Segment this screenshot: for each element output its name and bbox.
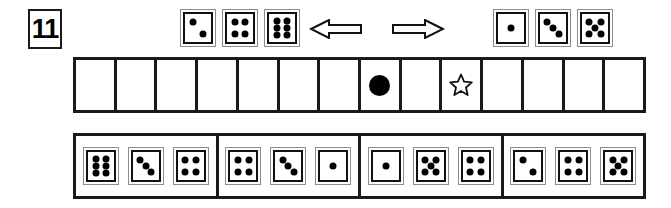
die-face-5 <box>580 12 610 44</box>
die-pip <box>234 156 241 163</box>
die-face-2 <box>513 150 543 182</box>
die-pip <box>544 18 551 25</box>
die-face-4 <box>461 150 491 182</box>
die-pip <box>92 155 99 162</box>
die-pip <box>137 156 144 163</box>
answer-group-b[interactable] <box>219 136 362 196</box>
dot-token-icon <box>369 75 390 96</box>
answer-group-c-die-2 <box>413 147 449 185</box>
die-face-6 <box>86 150 116 182</box>
die-pip <box>620 169 627 176</box>
rule-die-left-1 <box>180 9 216 47</box>
die-pip <box>273 17 280 24</box>
answer-group-b-die-3 <box>315 147 351 185</box>
track-cell-14[interactable] <box>605 60 643 110</box>
die-face-3 <box>131 150 161 182</box>
die-pip <box>586 31 593 38</box>
die-pip <box>279 156 286 163</box>
track-cell-8[interactable] <box>361 60 402 110</box>
die-pip <box>330 163 337 170</box>
die-pip <box>620 156 627 163</box>
die-pip <box>273 25 280 32</box>
die-pip <box>245 156 252 163</box>
die-pip <box>231 31 238 38</box>
die-face-1 <box>318 150 348 182</box>
answer-group-d-die-1 <box>510 147 546 185</box>
track-cell-13[interactable] <box>565 60 606 110</box>
answer-group-d[interactable] <box>504 136 644 196</box>
die-pip <box>245 169 252 176</box>
track-cell-7[interactable] <box>320 60 361 110</box>
die-face-3 <box>273 150 303 182</box>
answer-group-a-die-3 <box>173 147 209 185</box>
die-face-4 <box>225 12 255 44</box>
die-pip <box>550 25 557 32</box>
die-pip <box>530 169 537 176</box>
die-pip <box>467 156 474 163</box>
die-pip <box>564 156 571 163</box>
die-pip <box>478 169 485 176</box>
answer-group-c[interactable] <box>361 136 504 196</box>
die-pip <box>193 156 200 163</box>
track-cell-9[interactable] <box>402 60 443 110</box>
die-face-4 <box>228 150 258 182</box>
die-pip <box>508 25 515 32</box>
die-pip <box>273 32 280 39</box>
track-cell-1[interactable] <box>76 60 117 110</box>
die-pip <box>102 155 109 162</box>
die-pip <box>609 169 616 176</box>
rule-die-right-2 <box>535 9 571 47</box>
die-face-1 <box>371 150 401 182</box>
die-pip <box>597 31 604 38</box>
die-pip <box>478 156 485 163</box>
rule-die-right-3 <box>577 9 613 47</box>
die-face-5 <box>603 150 633 182</box>
die-pip <box>427 163 434 170</box>
die-pip <box>182 169 189 176</box>
track-cell-12[interactable] <box>524 60 565 110</box>
die-pip <box>433 156 440 163</box>
die-pip <box>284 17 291 24</box>
die-pip <box>189 18 196 25</box>
die-pip <box>592 25 599 32</box>
die-pip <box>193 169 200 176</box>
die-pip <box>575 156 582 163</box>
die-pip <box>284 25 291 32</box>
die-pip <box>290 169 297 176</box>
die-face-3 <box>538 12 568 44</box>
track-cell-5[interactable] <box>239 60 280 110</box>
track-cell-4[interactable] <box>198 60 239 110</box>
rule-die-left-2 <box>222 9 258 47</box>
answer-group-d-die-3 <box>600 147 636 185</box>
left-arrow-icon <box>309 19 363 39</box>
track-cell-2[interactable] <box>117 60 158 110</box>
die-pip <box>142 163 149 170</box>
die-pip <box>102 170 109 177</box>
die-pip <box>597 18 604 25</box>
answer-group-c-die-1 <box>368 147 404 185</box>
die-pip <box>564 169 571 176</box>
answer-group-a-die-1 <box>83 147 119 185</box>
die-pip <box>182 156 189 163</box>
die-face-6 <box>267 12 297 44</box>
answer-group-a[interactable] <box>76 136 219 196</box>
die-pip <box>555 31 562 38</box>
answer-group-b-die-1 <box>225 147 261 185</box>
star-token-icon <box>449 73 473 97</box>
die-pip <box>92 170 99 177</box>
die-pip <box>242 18 249 25</box>
die-pip <box>615 163 622 170</box>
track-cell-3[interactable] <box>157 60 198 110</box>
die-pip <box>520 156 527 163</box>
track-cell-11[interactable] <box>483 60 524 110</box>
track-cell-6[interactable] <box>280 60 321 110</box>
right-arrow-icon <box>391 19 445 39</box>
track-cell-10[interactable] <box>442 60 483 110</box>
die-pip <box>382 163 389 170</box>
die-pip <box>422 156 429 163</box>
die-pip <box>234 169 241 176</box>
die-face-4 <box>176 150 206 182</box>
answer-group-c-die-3 <box>458 147 494 185</box>
answer-group-b-die-2 <box>270 147 306 185</box>
die-pip <box>586 18 593 25</box>
